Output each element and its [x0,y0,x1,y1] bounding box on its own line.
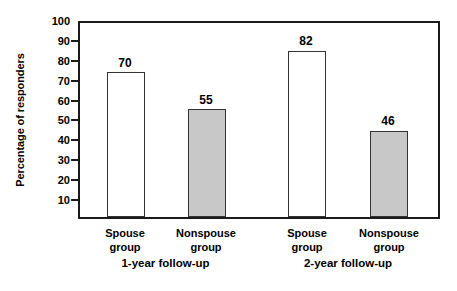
y-tick-mark-60 [71,100,78,102]
y-tick-mark-30 [71,159,78,161]
bar-nonspouse-2year [370,131,408,217]
bar-spouse-2year [288,51,326,217]
y-tick-mark-90 [71,40,78,42]
y-tick-mark-20 [71,179,78,181]
category-label-line2: group [342,240,436,254]
bar-value-nonspouse-1year: 55 [167,93,245,108]
category-label-nonspouse-2year: Nonspouse group [342,226,436,254]
category-label-spouse-1year: Spouse group [78,226,172,254]
y-tick-label-90: 90 [36,34,70,48]
y-tick-label-20: 20 [36,173,70,187]
y-axis-title: Percentage of responders [12,21,28,219]
y-tick-label-10: 10 [36,193,70,207]
y-tick-mark-70 [71,80,78,82]
y-tick-mark-50 [71,119,78,121]
bar-chart-figure: Percentage of responders 100 90 80 70 60… [0,0,457,291]
y-tick-mark-40 [71,139,78,141]
bar-value-spouse-1year: 70 [86,56,164,71]
y-tick-mark-80 [71,60,78,62]
y-tick-label-100: 100 [36,14,70,28]
category-label-line1: Nonspouse [359,227,419,239]
bar-nonspouse-1year [188,109,226,217]
category-label-line1: Nonspouse [176,227,236,239]
y-tick-label-50: 50 [36,113,70,127]
y-tick-label-70: 70 [36,74,70,88]
category-label-spouse-2year: Spouse group [260,226,354,254]
category-label-nonspouse-1year: Nonspouse group [159,226,253,254]
y-tick-label-80: 80 [36,54,70,68]
bar-value-spouse-2year: 82 [267,34,345,49]
category-label-line2: group [159,240,253,254]
y-tick-label-30: 30 [36,153,70,167]
y-tick-label-60: 60 [36,94,70,108]
bar-value-nonspouse-2year: 46 [349,114,427,129]
category-label-line1: Spouse [105,227,145,239]
y-tick-label-40: 40 [36,133,70,147]
category-label-line1: Spouse [287,227,327,239]
category-label-line2: group [260,240,354,254]
group-label-1year: 1-year follow-up [78,256,253,270]
bar-spouse-1year [107,72,145,217]
group-label-2year: 2-year follow-up [260,256,436,270]
category-label-line2: group [78,240,172,254]
y-tick-mark-10 [71,199,78,201]
